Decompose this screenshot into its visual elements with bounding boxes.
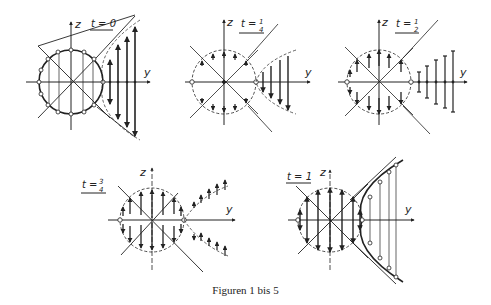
fig3-y-axis-label: y bbox=[459, 66, 467, 79]
fig3-z-axis-label: z bbox=[381, 16, 388, 29]
figure-3 bbox=[338, 20, 467, 134]
fig4-z-axis-label: z bbox=[139, 166, 146, 179]
figure-1 bbox=[26, 15, 150, 140]
fig2-t-numerator: 1 bbox=[259, 18, 263, 26]
fig5-z-axis-label: z bbox=[319, 166, 326, 179]
fig1-z-axis-label: z bbox=[74, 18, 81, 31]
fig4-t-numerator: 3 bbox=[99, 178, 103, 186]
figure-2 bbox=[185, 20, 310, 132]
fig2-z-axis-label: z bbox=[226, 16, 233, 29]
fig4-y-axis-label: y bbox=[225, 203, 233, 216]
fig3-t-label: t = bbox=[396, 18, 411, 29]
fig3-t-numerator: 1 bbox=[414, 18, 418, 26]
fig2-y-axis-label: y bbox=[304, 66, 312, 79]
figure-4 bbox=[108, 168, 235, 272]
fig1-t-label: t = 0 bbox=[91, 18, 116, 29]
fig5-y-axis-label: y bbox=[404, 203, 412, 216]
fig2-t-label: t = bbox=[241, 18, 256, 29]
fig5-t-label: t = 1 bbox=[287, 171, 312, 182]
fig1-y-axis-label: y bbox=[143, 66, 151, 79]
fig4-t-label: t = bbox=[82, 179, 97, 190]
figure-caption: Figuren 1 bis 5 bbox=[0, 284, 491, 296]
figures-canvas: z y t = 0 bbox=[0, 0, 491, 305]
